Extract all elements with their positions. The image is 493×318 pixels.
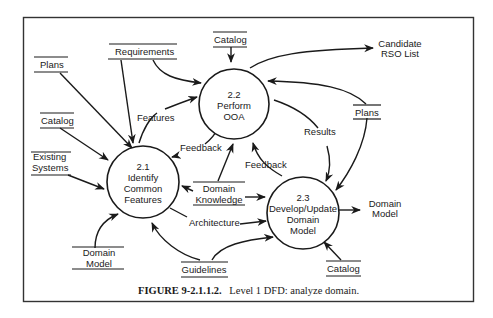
store-existing-systems[interactable]: Existing Systems (31, 151, 71, 175)
flow-label-features: Features (137, 112, 175, 123)
process-2-3[interactable]: 2.3 Develop/Update Domain Model (267, 177, 339, 249)
store-domain-knowledge[interactable]: Domain Knowledge (193, 182, 245, 205)
terminal-label-line-2: RSO List (381, 48, 419, 59)
store-catalog-bottom[interactable]: Catalog (326, 261, 361, 276)
process-2-1-line-3: Features (124, 194, 162, 205)
store-plans-left[interactable]: Plans (34, 57, 68, 72)
process-2-2-line-1: Perform (217, 100, 251, 111)
store-label-line-2: Knowledge (195, 194, 242, 205)
store-catalog-top[interactable]: Catalog (213, 32, 247, 47)
store-plans-right[interactable]: Plans (353, 105, 381, 119)
process-2-1[interactable]: 2.1 Identify Common Features (107, 146, 179, 218)
store-label: Catalog (214, 34, 247, 45)
store-label: Plans (40, 59, 64, 70)
store-guidelines[interactable]: Guidelines (181, 262, 228, 277)
store-domain-model[interactable]: Domain Model (72, 247, 124, 269)
process-2-1-line-2: Common (124, 183, 163, 194)
terminal-candidate-rso[interactable]: Candidate RSO List (378, 38, 421, 59)
terminal-label-line-2: Model (372, 208, 398, 219)
store-requirements[interactable]: Requirements (108, 44, 177, 59)
flow-label-feedback-2: Feedback (245, 159, 287, 170)
flow-label-results: Results (304, 126, 336, 137)
caption-number: FIGURE 9-2.1.1.2. (138, 285, 222, 296)
process-2-2-line-0: 2.2 (227, 89, 240, 100)
process-2-2[interactable]: 2.2 Perform OOA (199, 69, 269, 139)
store-label-line-1: Domain (83, 247, 116, 258)
process-2-3-line-0: 2.3 (296, 192, 309, 203)
process-2-3-line-1: Develop/Update (269, 203, 337, 214)
figure-caption: FIGURE 9-2.1.1.2. Level 1 DFD: analyze d… (138, 285, 359, 296)
process-2-3-line-3: Model (290, 225, 316, 236)
process-2-3-line-2: Domain (287, 214, 320, 225)
process-2-1-line-1: Identify (128, 172, 159, 183)
process-2-1-line-0: 2.1 (136, 161, 149, 172)
process-2-2-line-2: OOA (223, 111, 245, 122)
store-label: Plans (355, 107, 379, 118)
terminal-domain-model-out[interactable]: Domain Model (369, 198, 402, 219)
flow-label-feedback-1: Feedback (180, 142, 222, 153)
store-label: Requirements (115, 46, 174, 57)
caption-text: Level 1 DFD: analyze domain. (229, 285, 359, 296)
store-label: Catalog (327, 263, 360, 274)
flow-label-architecture: Architecture (189, 217, 240, 228)
store-label: Guidelines (182, 264, 227, 275)
store-label-line-1: Domain (203, 183, 236, 194)
store-label: Catalog (41, 115, 74, 126)
store-label-line-2: Systems (32, 162, 69, 173)
store-label-line-2: Model (86, 258, 112, 269)
store-label-line-1: Existing (33, 151, 66, 162)
dfd-diagram: 2.1 Identify Common Features 2.2 Perform… (0, 0, 493, 318)
store-catalog-left[interactable]: Catalog (40, 113, 74, 128)
